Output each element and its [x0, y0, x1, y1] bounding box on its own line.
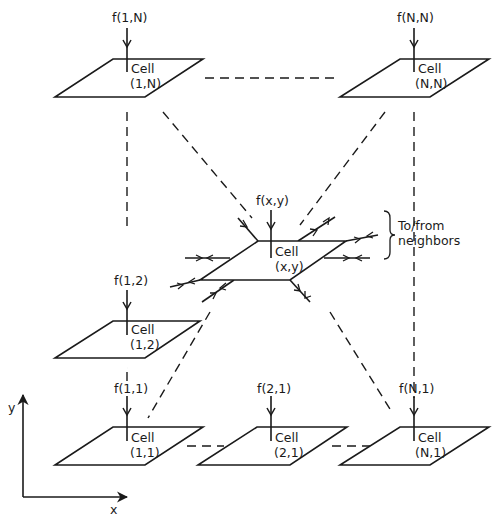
cell-coord: (N,1): [415, 445, 446, 460]
cell-grid-diagram: f(1,N) Cell (1,N) f(N,N) Cell (N,N): [0, 0, 502, 521]
cell-N1: f(N,1) Cell (N,1): [340, 381, 489, 465]
cell-title: Cell: [418, 430, 441, 445]
connection-NN-xy: [300, 112, 385, 225]
cell-coord: (2,1): [274, 445, 304, 460]
input-label: f(1,2): [114, 273, 148, 288]
cell-coord: (1,1): [130, 445, 160, 460]
cell-title: Cell: [131, 322, 154, 337]
cell-title: Cell: [131, 430, 154, 445]
input-label: f(N,N): [397, 10, 434, 25]
cell-coord: (1,N): [130, 76, 161, 91]
cell-xy: f(x,y) Cell (x,y): [200, 193, 346, 280]
brace-icon: [384, 211, 395, 259]
cell-coord: (N,N): [415, 76, 447, 91]
input-label: f(N,1): [399, 381, 434, 396]
neighbor-label-line2: neighbors: [398, 233, 460, 248]
input-label: f(1,1): [114, 381, 148, 396]
y-axis-label: y: [8, 400, 16, 415]
cell-11: f(1,1) Cell (1,1): [55, 381, 203, 465]
input-label: f(2,1): [257, 381, 291, 396]
neighbor-label-line1: To/from: [397, 218, 444, 233]
cell-title: Cell: [418, 61, 441, 76]
x-axis-label: x: [110, 502, 117, 517]
cell-coord: (1,2): [130, 337, 160, 352]
cell-coord: (x,y): [275, 259, 304, 274]
input-label: f(x,y): [256, 193, 289, 208]
cell-title: Cell: [275, 430, 298, 445]
connection-xy-N1: [330, 312, 393, 414]
cell-21: f(2,1) Cell (2,1): [198, 381, 347, 465]
cell-title: Cell: [131, 61, 154, 76]
cell-title: Cell: [275, 244, 298, 259]
cell-NN: f(N,N) Cell (N,N): [340, 10, 489, 97]
input-label: f(1,N): [112, 10, 147, 25]
cell-1N: f(1,N) Cell (1,N): [55, 10, 203, 97]
neighbor-brace: To/from neighbors: [384, 211, 460, 259]
connection-1N-xy: [163, 112, 252, 218]
